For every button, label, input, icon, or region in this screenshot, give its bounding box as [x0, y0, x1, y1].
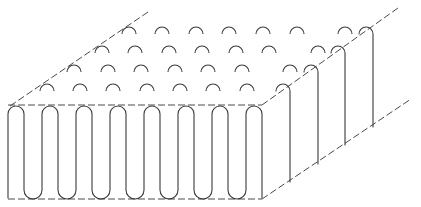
arch-icon: [235, 65, 249, 72]
arch-icon: [206, 84, 220, 91]
right-face-wire: [276, 84, 290, 182]
block-diagram: [0, 0, 421, 207]
arch-icon: [122, 27, 136, 34]
arch-icon: [311, 46, 325, 53]
right-face-wire: [359, 27, 373, 127]
right-face-wire: [331, 46, 345, 145]
right-face-wire: [304, 65, 318, 164]
top-face-arches: [40, 27, 352, 91]
arch-icon: [283, 65, 297, 72]
bottom-right-receding-edge: [262, 99, 411, 199]
arch-icon: [168, 65, 182, 72]
arch-icon: [101, 65, 115, 72]
arch-icon: [229, 46, 243, 53]
top-left-receding-edge: [10, 12, 148, 106]
arch-icon: [162, 46, 176, 53]
arch-icon: [222, 27, 236, 34]
arch-icon: [155, 27, 169, 34]
front-face-edges: [8, 105, 262, 199]
arch-icon: [73, 84, 87, 91]
arch-icon: [201, 65, 215, 72]
arch-icon: [40, 84, 54, 91]
arch-icon: [262, 46, 276, 53]
arch-icon: [240, 84, 254, 91]
top-right-receding-edge: [262, 8, 398, 105]
arch-icon: [173, 84, 187, 91]
arch-icon: [128, 46, 142, 53]
arch-icon: [134, 65, 148, 72]
serpentine-path: [8, 106, 262, 199]
arch-icon: [290, 27, 304, 34]
front-serpentine-wire: [8, 106, 262, 199]
arch-icon: [189, 27, 203, 34]
arch-icon: [338, 27, 352, 34]
arch-icon: [106, 84, 120, 91]
arch-icon: [195, 46, 209, 53]
arch-icon: [140, 84, 154, 91]
arch-icon: [256, 27, 270, 34]
